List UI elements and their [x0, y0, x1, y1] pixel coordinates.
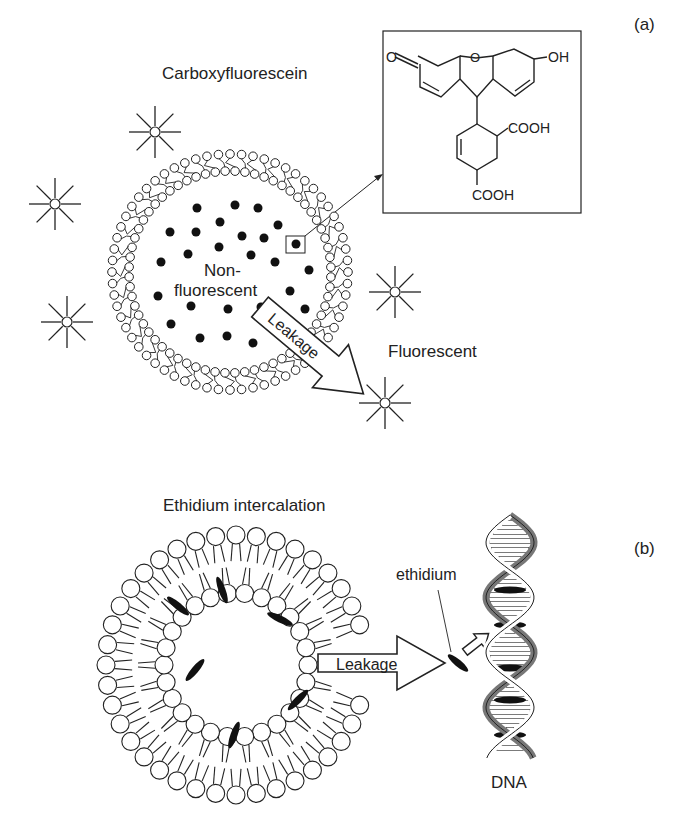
base-pair	[491, 602, 530, 607]
lipid-head-inner	[131, 302, 140, 311]
dye-molecule	[166, 228, 175, 237]
dye-molecule	[305, 266, 314, 275]
star-ray	[367, 407, 381, 421]
ring-oxygen: O	[470, 50, 480, 65]
lipid-tail	[247, 768, 251, 785]
lipid-tail	[263, 163, 266, 173]
lipid-tail	[162, 569, 171, 584]
dye-molecule	[286, 287, 295, 296]
lipid-tail	[185, 367, 192, 377]
lipid-head-inner	[128, 243, 137, 252]
lipid-head-inner	[297, 639, 315, 657]
lipid-head-outer	[168, 540, 186, 558]
star-ray	[159, 136, 173, 150]
dye-molecule	[274, 221, 283, 230]
lipid-tail	[268, 574, 273, 590]
lipid-tail	[243, 567, 246, 584]
lipid-tail	[195, 551, 199, 568]
lipid-head-inner	[317, 225, 326, 234]
structure-bonds	[395, 49, 547, 185]
lipid-tail	[125, 227, 135, 234]
lipid-tail	[288, 559, 295, 575]
lipid-head-outer	[332, 580, 350, 598]
lipid-head-inner	[241, 168, 250, 177]
lipid-head-outer	[99, 676, 117, 694]
lipid-tail	[240, 769, 241, 786]
hydroxyl-group: OH	[548, 49, 569, 65]
lipid-head-inner	[125, 263, 134, 272]
lipid-tail	[265, 371, 276, 377]
lipid-tail	[263, 549, 270, 565]
lipid-tail	[284, 361, 295, 367]
lipid-head-inner	[221, 167, 230, 176]
lipid-head-outer	[286, 540, 304, 558]
lipid-tail	[194, 371, 197, 381]
lipid-head-inner	[250, 170, 259, 179]
lipid-tail	[288, 755, 295, 771]
lipid-tail	[268, 740, 273, 756]
lipid-tail	[120, 631, 136, 638]
lipid-head-outer	[260, 155, 269, 164]
lipid-tail	[121, 236, 131, 239]
lipid-head-outer	[291, 366, 300, 375]
lipid-head-inner	[291, 623, 309, 641]
lipid-tail	[279, 556, 288, 571]
lipid-head-inner	[131, 234, 140, 243]
carboxyfluorescein-structure: O O OH COOH COOH	[383, 31, 581, 213]
lipid-tail	[204, 160, 214, 168]
lipid-head-outer	[135, 748, 153, 766]
lipid-head-inner	[145, 328, 154, 337]
lipid-tail	[334, 246, 342, 256]
lipid-tail	[136, 597, 149, 608]
lipid-head-outer	[122, 580, 140, 598]
lipid-head-outer	[343, 715, 361, 733]
lipid-head-outer	[247, 784, 265, 802]
lipid-head-outer	[203, 383, 212, 392]
lipid-head-outer	[122, 323, 131, 332]
carboxyl-group-1: COOH	[508, 120, 550, 136]
lipid-head-inner	[269, 176, 278, 185]
lipid-tail	[273, 762, 277, 779]
lipid-head-outer	[122, 212, 131, 221]
lipid-tail	[122, 624, 139, 628]
star-ray	[399, 274, 413, 288]
lipid-tail	[140, 681, 156, 686]
star-ray	[137, 136, 151, 150]
lipid-tail	[140, 643, 156, 648]
star-center	[62, 317, 72, 327]
lipid-head-outer	[181, 377, 190, 386]
lipid-tail	[222, 745, 223, 762]
lipid-head-inner	[236, 585, 254, 603]
lipid-head-outer	[128, 202, 137, 211]
lipid-tail	[325, 310, 335, 317]
base-pair	[496, 719, 524, 724]
lipid-head-outer	[303, 761, 321, 779]
ethidium-pointer	[438, 590, 451, 652]
lipid-head-inner	[231, 167, 240, 176]
lipid-head-outer	[271, 377, 280, 386]
lipid-tail	[262, 742, 269, 757]
lipid-tail	[329, 226, 335, 237]
lipid-tail	[226, 746, 229, 763]
star-ray	[49, 304, 63, 318]
lipid-head-outer	[319, 748, 337, 766]
lipid-head-outer	[207, 784, 225, 802]
lipid-head-inner	[297, 673, 315, 691]
lipid-tail	[294, 599, 308, 609]
lipid-head-outer	[187, 780, 205, 798]
lipid-head-outer	[341, 245, 350, 254]
lipid-tail	[118, 246, 128, 255]
lipid-tail	[127, 708, 142, 717]
lipid-tail	[314, 688, 331, 691]
nonfluorescent-label-line2: fluorescent	[174, 281, 257, 300]
lipid-head-outer	[170, 164, 179, 173]
dye-molecule	[238, 232, 247, 241]
lipid-tail	[164, 721, 178, 731]
lipid-tail	[221, 545, 225, 562]
lipid-tail	[153, 742, 166, 753]
lipid-head-outer	[111, 715, 129, 733]
dye-molecule	[231, 201, 240, 210]
lipid-tail	[306, 742, 319, 753]
lipid-head-outer	[343, 279, 352, 288]
lipid-head-outer	[191, 381, 200, 390]
